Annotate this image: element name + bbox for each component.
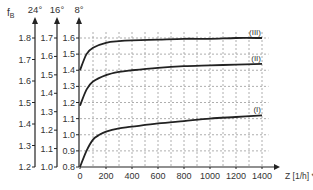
- svg-text:1.5: 1.5: [18, 98, 31, 108]
- svg-text:1.2: 1.2: [18, 162, 31, 172]
- svg-text:1400: 1400: [252, 171, 272, 181]
- svg-text:1.3: 1.3: [40, 107, 53, 117]
- svg-text:1.1: 1.1: [40, 144, 53, 154]
- svg-text:1.7: 1.7: [40, 33, 53, 43]
- svg-text:1.0: 1.0: [62, 130, 75, 140]
- svg-text:1.3: 1.3: [18, 141, 31, 151]
- svg-text:800: 800: [176, 171, 191, 181]
- svg-text:1.2: 1.2: [62, 98, 75, 108]
- svg-text:1.0: 1.0: [40, 162, 53, 172]
- svg-text:(III): (III): [249, 28, 261, 37]
- svg-text:1.7: 1.7: [18, 55, 31, 65]
- svg-text:1.6: 1.6: [62, 33, 75, 43]
- svg-text:0.9: 0.9: [62, 146, 75, 156]
- svg-text:1200: 1200: [226, 171, 246, 181]
- svg-text:1.5: 1.5: [62, 49, 75, 59]
- svg-text:1.5: 1.5: [40, 70, 53, 80]
- svg-text:Z [1/h] **: Z [1/h] **: [285, 171, 313, 181]
- svg-text:(II): (II): [251, 54, 261, 63]
- chart: 0200400600800100012001400Z [1/h] **1.21.…: [0, 0, 313, 190]
- svg-text:(I): (I): [253, 105, 261, 114]
- svg-text:16°: 16°: [50, 4, 65, 15]
- svg-text:24°: 24°: [28, 4, 43, 15]
- svg-text:1.4: 1.4: [62, 65, 75, 75]
- svg-text:1.6: 1.6: [18, 76, 31, 86]
- svg-text:fB: fB: [7, 7, 15, 19]
- svg-text:1.2: 1.2: [40, 125, 53, 135]
- svg-text:1.6: 1.6: [40, 51, 53, 61]
- svg-text:1.8: 1.8: [18, 33, 31, 43]
- svg-text:1.3: 1.3: [62, 81, 75, 91]
- svg-text:1.1: 1.1: [62, 114, 75, 124]
- svg-text:1.4: 1.4: [18, 119, 31, 129]
- svg-text:1000: 1000: [200, 171, 220, 181]
- labels: 0200400600800100012001400Z [1/h] **1.21.…: [7, 4, 313, 181]
- svg-text:0.8: 0.8: [62, 162, 75, 172]
- svg-text:0: 0: [77, 171, 82, 181]
- svg-text:400: 400: [124, 171, 139, 181]
- grid-lines: [80, 32, 269, 167]
- svg-text:600: 600: [150, 171, 165, 181]
- svg-text:1.4: 1.4: [40, 88, 53, 98]
- svg-text:8°: 8°: [74, 4, 83, 15]
- svg-text:200: 200: [98, 171, 113, 181]
